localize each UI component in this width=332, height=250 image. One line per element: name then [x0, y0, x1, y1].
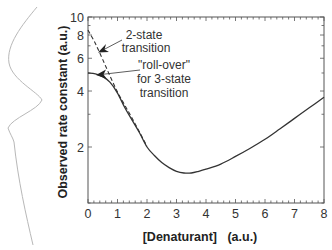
annotation-2-state-line1: 2-state [126, 28, 163, 42]
x-tick-label: 1 [114, 207, 121, 221]
x-tick-label: 8 [321, 207, 328, 221]
x-tick-label: 2 [144, 207, 151, 221]
y-axis-title: Observed rate constant (a.u.) [56, 26, 70, 199]
x-tick-label: 5 [232, 207, 239, 221]
axis-tick-labels: 012345678246810 [70, 11, 327, 222]
x-tick-label: 6 [262, 207, 269, 221]
x-tick-label: 7 [291, 207, 298, 221]
y-tick-label: 10 [70, 11, 84, 25]
y-tick-label: 4 [77, 85, 84, 99]
annotation-2-state: 2-state transition [98, 28, 170, 55]
x-axis-title: [Denaturant] (a.u.) [143, 230, 258, 244]
three-state-curve [88, 73, 324, 173]
y-tick-label: 2 [77, 141, 84, 155]
y-tick-label: 8 [77, 29, 84, 43]
y-tick-label: 6 [77, 52, 84, 66]
decorative-curve [8, 7, 42, 245]
annotation-roll-over-line3: transition [140, 86, 189, 100]
annotation-roll-over: "roll-over" for 3-state transition [96, 58, 191, 100]
annotation-roll-over-line2: for 3-state [137, 72, 191, 86]
arrow-head-icon [98, 44, 109, 53]
annotation-roll-over-line1: "roll-over" [138, 58, 190, 72]
arrow-line [103, 40, 122, 50]
annotation-2-state-line2: transition [122, 41, 171, 55]
x-tick-label: 4 [203, 207, 210, 221]
x-tick-label: 3 [173, 207, 180, 221]
arrow-line [101, 70, 140, 75]
rate-vs-denaturant-chart: 012345678246810 2-state transition "roll… [0, 0, 332, 250]
x-tick-label: 0 [85, 207, 92, 221]
